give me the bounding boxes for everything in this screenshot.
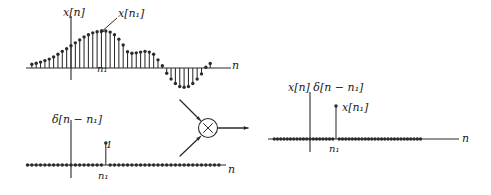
input-signal-axis-label: x[n] [63, 6, 85, 19]
sample-marker [386, 137, 389, 140]
sample-marker [165, 163, 168, 166]
sample-marker [135, 51, 138, 54]
sample-marker [156, 163, 159, 166]
sample-marker [39, 163, 42, 166]
sample-marker [143, 50, 146, 53]
sample-marker [35, 163, 38, 166]
sample-marker [289, 137, 292, 140]
sample-marker [161, 64, 164, 67]
sample-marker [169, 163, 172, 166]
sample-marker [187, 163, 190, 166]
sample-marker [61, 163, 64, 166]
sample-marker [299, 137, 302, 140]
sample-marker [43, 59, 46, 62]
sample-marker [165, 71, 168, 74]
product-peak-label: x[n₁] [342, 101, 368, 114]
sample-marker [69, 44, 72, 47]
sample-marker [39, 60, 42, 63]
sample-marker [403, 137, 406, 140]
sample-marker [148, 163, 151, 166]
sample-marker [48, 163, 51, 166]
sample-marker [30, 163, 33, 166]
sample-marker [282, 137, 285, 140]
sample-marker [302, 137, 305, 140]
sample-marker [419, 137, 422, 140]
sample-marker [360, 137, 363, 140]
sample-marker [69, 163, 72, 166]
sample-marker [122, 163, 125, 166]
input-signal-peak-label: x[n₁] [118, 7, 144, 20]
sample-marker [152, 53, 155, 56]
sample-marker [139, 163, 142, 166]
input-arrow-impulse-line [180, 137, 201, 157]
product-index-tick: n₁ [329, 143, 339, 154]
sample-marker [126, 50, 129, 53]
output-arrow-product-head [244, 126, 248, 130]
sample-marker [108, 163, 111, 166]
sample-marker [191, 82, 194, 85]
sample-marker [396, 137, 399, 140]
sample-marker [370, 137, 373, 140]
sample-marker [200, 163, 203, 166]
sample-marker [325, 137, 328, 140]
sample-marker [87, 163, 90, 166]
sample-marker [195, 77, 198, 80]
sample-marker [347, 137, 350, 140]
sample-marker [204, 66, 207, 69]
sample-marker [174, 82, 177, 85]
sample-marker [276, 137, 279, 140]
multiplier-operator [180, 100, 248, 156]
sample-marker [43, 163, 46, 166]
sample-marker [279, 137, 282, 140]
input-arrow-signal-line [180, 100, 201, 121]
sample-marker [331, 137, 334, 140]
input-signal-plot [26, 16, 231, 89]
sample-marker [169, 77, 172, 80]
impulse-plot [26, 120, 226, 178]
sample-marker [380, 137, 383, 140]
sample-marker [200, 72, 203, 75]
sample-marker [273, 137, 276, 140]
impulse-n-axis-label: n [228, 163, 235, 176]
sample-marker [126, 163, 129, 166]
sample-marker [65, 163, 68, 166]
sample-marker [143, 163, 146, 166]
sample-marker [217, 163, 220, 166]
sample-marker [354, 137, 357, 140]
sample-marker [65, 47, 68, 50]
sample-marker [74, 163, 77, 166]
sample-marker [295, 137, 298, 140]
sample-marker [315, 137, 318, 140]
figure-canvas [0, 0, 491, 195]
sample-marker [130, 52, 133, 55]
sample-marker [305, 137, 308, 140]
sample-marker [334, 104, 337, 107]
sample-marker [135, 163, 138, 166]
sample-marker [113, 33, 116, 36]
sample-marker [139, 50, 142, 53]
sample-marker [104, 29, 107, 32]
sample-marker [312, 137, 315, 140]
sample-marker [344, 137, 347, 140]
sample-marker [209, 163, 212, 166]
input-signal-index-tick: n₁ [97, 63, 107, 74]
sample-marker [56, 53, 59, 56]
input-signal-n-axis-label: n [232, 59, 239, 72]
sample-marker [174, 163, 177, 166]
sample-marker [113, 163, 116, 166]
sample-marker [286, 137, 289, 140]
sample-marker [91, 163, 94, 166]
sample-marker [308, 137, 311, 140]
sample-marker [52, 55, 55, 58]
sample-marker [91, 31, 94, 34]
sample-marker [182, 86, 185, 89]
sample-marker [30, 63, 33, 66]
sample-marker [82, 35, 85, 38]
sample-marker [152, 163, 155, 166]
product-n-axis-label: n [462, 132, 469, 145]
impulse-axis-label: δ[n − n₁] [52, 113, 102, 126]
sample-marker [61, 50, 64, 53]
sample-marker [213, 163, 216, 166]
sample-marker [412, 137, 415, 140]
sample-marker [357, 137, 360, 140]
